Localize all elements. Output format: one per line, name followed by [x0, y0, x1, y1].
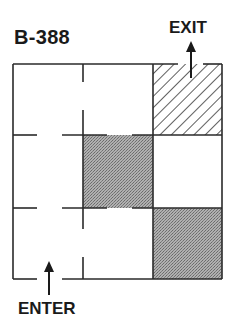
cell-bottom-right-shaded — [153, 208, 222, 279]
maze-diagram — [0, 0, 238, 333]
cell-center-shaded — [83, 135, 153, 208]
enter-arrow-icon — [44, 261, 54, 295]
cell-exit-hatched — [153, 64, 222, 135]
